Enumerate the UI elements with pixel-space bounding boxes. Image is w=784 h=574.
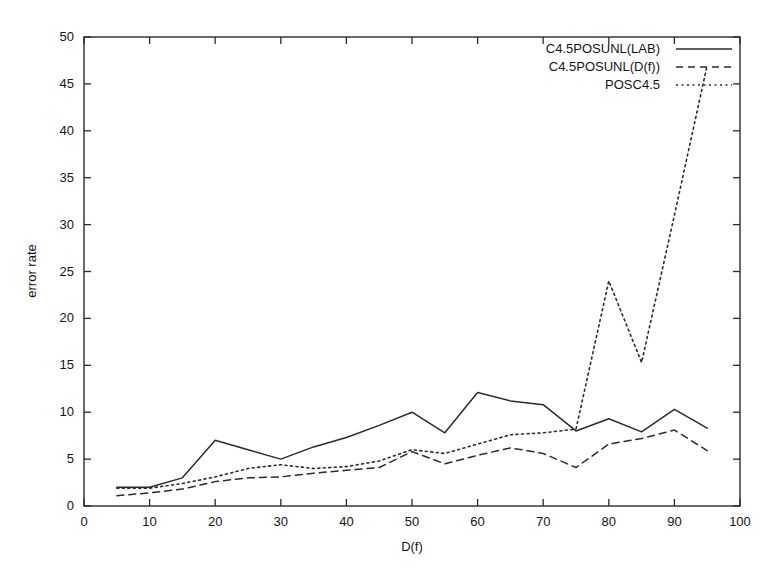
y-axis-title: error rate (24, 244, 39, 297)
x-tick-label: 60 (470, 514, 484, 529)
legend-label-1: C4.5POSUNL(LAB) (546, 41, 660, 56)
x-tick-label: 70 (536, 514, 550, 529)
x-tick-label: 0 (80, 514, 87, 529)
axes (84, 37, 740, 506)
x-tick-label: 10 (142, 514, 156, 529)
x-tick-labels: 0102030405060708090100 (80, 514, 750, 529)
legend-label-2: C4.5POSUNL(D(f)) (549, 59, 660, 74)
x-tick-label: 50 (405, 514, 419, 529)
series-line-3 (117, 65, 707, 488)
x-tick-label: 30 (274, 514, 288, 529)
y-tick-label: 15 (60, 357, 74, 372)
y-tick-label: 45 (60, 76, 74, 91)
x-axis-title: D(f) (401, 539, 423, 554)
x-tick-label: 100 (729, 514, 751, 529)
axis-ticks (84, 37, 740, 506)
x-tick-label: 90 (667, 514, 681, 529)
legend-label-3: POSC4.5 (605, 77, 660, 92)
series-line-1 (117, 393, 707, 488)
chart-container: 0102030405060708090100 05101520253035404… (0, 0, 784, 574)
y-tick-label: 5 (67, 451, 74, 466)
series-line-2 (117, 430, 707, 496)
y-tick-label: 30 (60, 217, 74, 232)
y-tick-label: 0 (67, 498, 74, 513)
chart-legend: C4.5POSUNL(LAB)C4.5POSUNL(D(f))POSC4.5 (546, 41, 732, 92)
y-tick-labels: 05101520253035404550 (60, 29, 74, 513)
x-tick-label: 80 (602, 514, 616, 529)
y-tick-label: 35 (60, 170, 74, 185)
y-tick-label: 40 (60, 123, 74, 138)
error-rate-line-chart: 0102030405060708090100 05101520253035404… (0, 0, 784, 574)
y-tick-label: 25 (60, 264, 74, 279)
y-tick-label: 50 (60, 29, 74, 44)
y-tick-label: 20 (60, 310, 74, 325)
x-tick-label: 40 (339, 514, 353, 529)
y-tick-label: 10 (60, 404, 74, 419)
data-series (117, 65, 707, 496)
x-tick-label: 20 (208, 514, 222, 529)
